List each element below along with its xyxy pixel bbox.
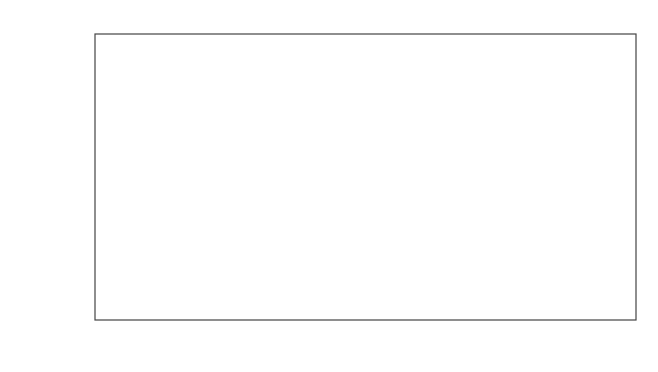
chart — [0, 0, 658, 372]
plot-frame — [95, 34, 636, 320]
